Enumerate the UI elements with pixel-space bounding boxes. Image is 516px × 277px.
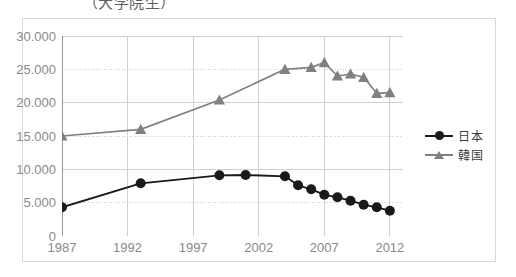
data-point-marker-circle — [359, 200, 369, 210]
y-axis-tick-label: 15.000 — [2, 130, 56, 143]
legend-marker-shape — [435, 131, 444, 140]
data-series — [62, 170, 395, 216]
legend-item-korea[interactable]: 韓国 — [424, 145, 492, 164]
y-axis-tick-label: 25.000 — [2, 63, 56, 76]
data-point-marker-circle — [372, 202, 382, 212]
data-point-marker-triangle — [214, 94, 225, 104]
data-point-marker-circle — [214, 170, 224, 180]
data-point-marker-circle — [293, 180, 303, 190]
legend-item-label: 韓国 — [454, 146, 483, 163]
data-point-marker-circle — [385, 206, 395, 216]
plot-area — [62, 36, 403, 236]
y-axis-tick-label: 30.000 — [2, 30, 56, 43]
x-axis-tick-label: 1997 — [179, 241, 208, 254]
axis-ticks — [62, 36, 403, 236]
data-point-marker-triangle — [319, 57, 330, 67]
legend-marker-circle-icon — [424, 128, 454, 144]
series-line — [62, 175, 390, 211]
x-axis-tick-label: 2007 — [310, 241, 339, 254]
data-point-marker-circle — [319, 190, 329, 200]
data-point-marker-circle — [241, 170, 251, 180]
chart-legend: 日本韓国 — [424, 126, 492, 164]
plot-svg — [62, 36, 403, 236]
data-point-marker-circle — [62, 202, 67, 212]
data-point-marker-circle — [346, 196, 356, 206]
data-point-marker-circle — [332, 192, 342, 202]
legend-item-label: 日本 — [454, 127, 483, 144]
y-axis-tick-labels: 05.00010.00015.00020.00025.00030.000 — [0, 36, 56, 236]
axis-lines — [62, 36, 403, 236]
data-point-marker-circle — [306, 184, 316, 194]
legend-marker-shape — [434, 151, 444, 159]
legend-item-japan[interactable]: 日本 — [424, 126, 492, 145]
y-axis-tick-label: 10.000 — [2, 163, 56, 176]
data-point-marker-triangle — [345, 68, 356, 78]
y-axis-tick-label: 5.000 — [2, 196, 56, 209]
legend-marker-triangle-icon — [424, 147, 454, 163]
series-line — [62, 63, 390, 136]
x-axis-tick-label: 1987 — [48, 241, 77, 254]
x-axis-tick-label: 1992 — [113, 241, 142, 254]
data-point-marker-circle — [136, 178, 146, 188]
x-axis-tick-label: 2002 — [244, 241, 273, 254]
y-axis-tick-label: 20.000 — [2, 96, 56, 109]
x-axis-tick-label: 2012 — [375, 241, 404, 254]
gridlines — [62, 36, 403, 236]
chart-figure: （大学院生） 05.00010.00015.00020.00025.00030.… — [0, 0, 516, 277]
data-point-marker-circle — [280, 171, 290, 181]
chart-title: （大学院生） — [0, 0, 258, 12]
x-axis-tick-labels: 198719921997200220072012 — [62, 241, 403, 261]
